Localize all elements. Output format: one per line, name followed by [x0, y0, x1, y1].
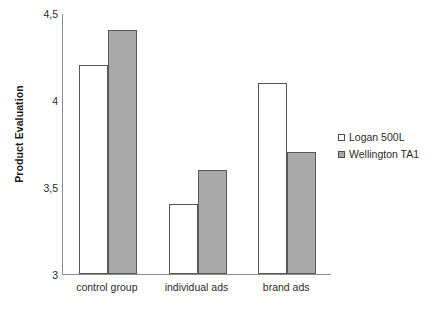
bars-layer: [63, 14, 331, 274]
legend-swatch-open-square-icon: [338, 134, 345, 141]
y-tick-label: 4,5: [28, 9, 58, 19]
y-axis-tick-labels: 4,5 4 3,5 3: [28, 0, 58, 314]
y-tick-label: 4: [28, 96, 58, 106]
y-axis-title: Product Evaluation: [13, 69, 25, 199]
x-axis-label: brand ads: [226, 281, 346, 293]
bar: [108, 30, 137, 274]
bar: [287, 152, 316, 274]
legend-item: Logan 500L: [338, 130, 438, 144]
bar: [169, 204, 198, 274]
bar-chart: Product Evaluation 4,5 4 3,5 3 control g…: [0, 0, 439, 314]
y-tick-label: 3,5: [28, 183, 58, 193]
legend-swatch-filled-square-icon: [338, 151, 345, 158]
legend-item-label: Logan 500L: [349, 131, 404, 143]
bar: [79, 65, 108, 274]
plot-area: [62, 14, 331, 275]
x-axis-labels: control groupindividual adsbrand ads: [62, 281, 331, 301]
bar: [198, 170, 227, 274]
legend: Logan 500L Wellington TA1: [338, 130, 438, 164]
legend-item: Wellington TA1: [338, 147, 438, 161]
bar: [258, 83, 287, 274]
legend-item-label: Wellington TA1: [349, 148, 419, 160]
y-tick-label: 3: [28, 270, 58, 280]
